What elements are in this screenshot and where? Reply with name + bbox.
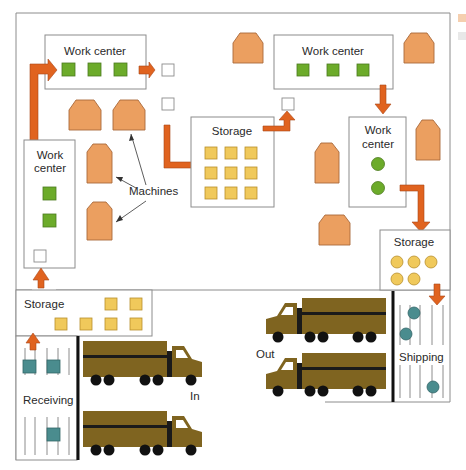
storage-item-circle	[425, 256, 437, 268]
machine-icon	[87, 202, 112, 240]
machines-label: Machines	[129, 185, 178, 197]
truck-in-2	[83, 411, 202, 456]
work-center-left-label-line2: center	[34, 162, 66, 174]
flow-arrow-up-icon	[33, 268, 49, 288]
storage-item-circle	[391, 273, 403, 285]
machine-icon	[404, 33, 434, 63]
facility-layout-diagram: Work center Work center Machines	[0, 0, 466, 470]
work-item-square	[327, 64, 339, 76]
receiving-dock: Receiving	[16, 336, 77, 460]
truck-out-2	[266, 353, 386, 397]
shipping-dock: Shipping	[393, 291, 444, 402]
storage-item-square	[205, 147, 217, 159]
edge-marker-group	[458, 14, 466, 40]
storage-item-square	[105, 318, 117, 330]
storage-middle: Storage	[191, 117, 274, 207]
receiving-label: Receiving	[23, 394, 74, 406]
dock-item-square	[47, 360, 60, 373]
truck-in-1	[83, 341, 202, 386]
trucks-out-label: Out	[256, 348, 275, 360]
work-item-square	[62, 63, 75, 76]
truck-out-1	[266, 298, 386, 343]
storage-item-square	[130, 298, 142, 310]
storage-item-circle	[391, 256, 403, 268]
storage-item-circle	[408, 256, 420, 268]
buffer-square	[34, 250, 46, 262]
dock-item-circle	[427, 381, 439, 393]
buffer-square	[282, 98, 294, 110]
work-item-square	[88, 63, 101, 76]
storage-item-square	[225, 147, 237, 159]
machine-icon	[87, 144, 112, 183]
work-item-square	[297, 64, 309, 76]
work-center-left-label-line1: Work	[37, 149, 64, 161]
work-item-circle	[372, 158, 385, 171]
storage-item-square	[225, 187, 237, 199]
work-item-circle	[372, 182, 385, 195]
edge-marker-gray	[458, 32, 466, 40]
flow-arrow-icon	[30, 59, 57, 143]
dock-item-square	[23, 360, 36, 373]
machine-icon	[315, 143, 339, 183]
buffer-square	[162, 98, 174, 110]
storage-item-square	[245, 187, 257, 199]
storage-item-square	[55, 318, 67, 330]
work-item-square	[43, 187, 56, 200]
storage-middle-label: Storage	[212, 125, 252, 137]
dock-item-square	[47, 428, 60, 441]
work-center-top-right: Work center	[274, 35, 393, 89]
storage-bottom-left: Storage	[16, 290, 152, 336]
work-center-right-label-line1: Work	[365, 124, 392, 136]
storage-bottom-left-label: Storage	[24, 298, 64, 310]
trucks-in-label: In	[190, 390, 200, 402]
machine-icon	[319, 215, 350, 245]
storage-item-square	[245, 147, 257, 159]
storage-item-circle	[408, 273, 420, 285]
dock-item-circle	[408, 307, 420, 319]
work-center-right: Work center	[349, 117, 406, 207]
shipping-label: Shipping	[399, 351, 444, 363]
work-center-left: Work center	[24, 140, 75, 268]
dock-item-circle	[400, 328, 412, 340]
storage-item-square	[130, 318, 142, 330]
work-center-top-right-label: Work center	[302, 45, 364, 57]
work-item-square	[114, 63, 127, 76]
machine-icon	[416, 120, 440, 160]
storage-item-square	[105, 298, 117, 310]
storage-item-square	[225, 167, 237, 179]
work-center-right-label-line2: center	[362, 138, 394, 150]
storage-item-square	[205, 167, 217, 179]
storage-item-square	[245, 167, 257, 179]
machine-icon	[113, 100, 145, 130]
machine-icon	[69, 100, 101, 130]
machine-icon	[233, 33, 263, 63]
edge-marker-orange	[458, 14, 466, 22]
storage-item-square	[205, 187, 217, 199]
work-center-top-left-label: Work center	[64, 45, 126, 57]
work-item-square	[357, 64, 369, 76]
buffer-square	[162, 64, 174, 76]
storage-item-square	[80, 318, 92, 330]
work-center-top-left: Work center	[45, 35, 146, 89]
storage-right-label: Storage	[394, 236, 434, 248]
storage-right: Storage	[380, 230, 450, 290]
work-item-square	[43, 214, 56, 227]
